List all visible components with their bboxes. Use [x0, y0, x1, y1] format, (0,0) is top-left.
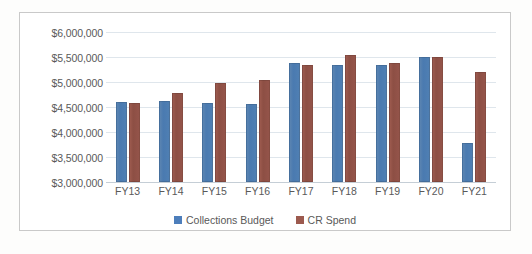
bar-fy18-series0[interactable]	[332, 65, 343, 183]
chart-screenshot: $3,000,000$3,500,000$4,000,000$4,500,000…	[0, 0, 532, 254]
x-axis-tick-label: FY18	[323, 185, 366, 197]
bar-groups	[106, 32, 496, 182]
bar-fy14-series0[interactable]	[159, 101, 170, 183]
bar-group	[366, 32, 409, 182]
bar-group	[236, 32, 279, 182]
y-axis-tick-label: $5,000,000	[25, 77, 103, 89]
bar-fy13-series0[interactable]	[116, 102, 127, 183]
x-axis-labels: FY13FY14FY15FY16FY17FY18FY19FY20FY21	[106, 185, 496, 197]
bar-group	[409, 32, 452, 182]
legend-swatch-icon	[296, 216, 304, 224]
bar-fy19-series1[interactable]	[389, 63, 400, 183]
bar-fy15-series1[interactable]	[215, 83, 226, 183]
bar-fy16-series1[interactable]	[259, 80, 270, 183]
bar-fy15-series0[interactable]	[202, 103, 213, 182]
bar-fy18-series1[interactable]	[345, 55, 356, 183]
bar-group	[279, 32, 322, 182]
x-axis-tick-label: FY20	[409, 185, 452, 197]
legend-item[interactable]: Collections Budget	[174, 214, 274, 226]
y-axis-tick-label: $4,000,000	[25, 127, 103, 139]
bar-fy21-series1[interactable]	[475, 72, 486, 183]
chart-legend: Collections BudgetCR Spend	[20, 214, 510, 226]
bar-group	[149, 32, 192, 182]
x-axis-tick-label: FY15	[193, 185, 236, 197]
y-axis-labels: $3,000,000$3,500,000$4,000,000$4,500,000…	[20, 33, 103, 183]
bar-fy17-series1[interactable]	[302, 65, 313, 183]
bar-fy21-series0[interactable]	[462, 143, 473, 183]
legend-item[interactable]: CR Spend	[296, 214, 356, 226]
x-axis-tick-label: FY19	[366, 185, 409, 197]
y-axis-tick-label: $4,500,000	[25, 102, 103, 114]
bar-fy17-series0[interactable]	[289, 63, 300, 183]
axis-baseline	[106, 182, 496, 183]
x-axis-tick-label: FY17	[279, 185, 322, 197]
bar-fy20-series0[interactable]	[419, 57, 430, 183]
bar-fy14-series1[interactable]	[172, 93, 183, 182]
x-axis-tick-label: FY21	[453, 185, 496, 197]
bar-fy16-series0[interactable]	[246, 104, 257, 182]
legend-label: Collections Budget	[186, 214, 274, 226]
bar-group	[193, 32, 236, 182]
bar-group	[106, 32, 149, 182]
x-axis-tick-label: FY13	[106, 185, 149, 197]
y-axis-tick-label: $3,500,000	[25, 152, 103, 164]
bar-fy19-series0[interactable]	[376, 65, 387, 183]
chart-frame: $3,000,000$3,500,000$4,000,000$4,500,000…	[19, 12, 511, 231]
bar-group	[453, 32, 496, 182]
y-axis-tick-label: $5,500,000	[25, 52, 103, 64]
bar-fy20-series1[interactable]	[432, 57, 443, 183]
x-axis-tick-label: FY14	[149, 185, 192, 197]
bar-group	[323, 32, 366, 182]
legend-label: CR Spend	[308, 214, 356, 226]
y-axis-tick-label: $6,000,000	[25, 27, 103, 39]
legend-swatch-icon	[174, 216, 182, 224]
y-axis-tick-label: $3,000,000	[25, 177, 103, 189]
x-axis-tick-label: FY16	[236, 185, 279, 197]
bar-fy13-series1[interactable]	[129, 103, 140, 182]
